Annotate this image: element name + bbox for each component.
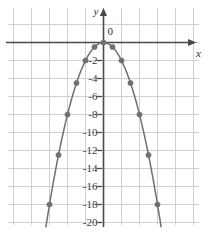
data-point (146, 152, 151, 157)
data-point (74, 80, 79, 85)
data-point (155, 202, 160, 207)
y-axis-label: y (94, 6, 99, 17)
data-point (119, 58, 124, 63)
y-tick-label: -4 (88, 73, 97, 84)
data-point (83, 58, 88, 63)
data-point (128, 80, 133, 85)
data-point (101, 40, 106, 45)
data-point (56, 152, 61, 157)
data-point (65, 112, 70, 117)
y-tick-label: -8 (88, 109, 97, 120)
data-point (137, 112, 142, 117)
y-tick-label: -16 (83, 181, 98, 192)
y-tick-label: -20 (83, 217, 98, 228)
data-point (92, 44, 97, 49)
data-point (110, 44, 115, 49)
y-tick-label: -2 (88, 55, 97, 66)
data-point (47, 202, 52, 207)
origin-label: 0 (108, 26, 114, 37)
x-axis-label: x (196, 48, 201, 59)
y-tick-label: -18 (83, 199, 98, 210)
y-tick-label: -10 (83, 127, 98, 138)
parabola-chart: -2-4-6-8-10-12-14-16-18-20 0 x y (0, 0, 208, 233)
y-tick-label: -6 (88, 91, 97, 102)
plot-area (0, 0, 208, 233)
y-tick-label: -14 (83, 163, 98, 174)
y-tick-label: -12 (83, 145, 98, 156)
